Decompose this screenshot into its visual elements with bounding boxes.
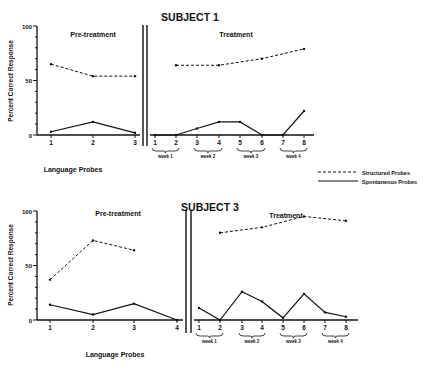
- x-tick-label: 6: [302, 324, 306, 331]
- data-point: [49, 304, 51, 306]
- data-point: [175, 64, 177, 66]
- chart-title: SUBJECT 3: [181, 201, 239, 213]
- data-point: [241, 290, 243, 292]
- week-brace: [194, 148, 222, 153]
- x-tick-label: 4: [175, 324, 179, 331]
- phase-label-treatment: Treatment: [269, 212, 303, 219]
- x-tick-label: 1: [49, 139, 53, 146]
- week-brace: [280, 148, 307, 153]
- data-point: [133, 249, 135, 251]
- data-point: [345, 316, 347, 318]
- data-point: [198, 307, 200, 309]
- legend-structured-label: Structured Probes: [362, 170, 410, 176]
- x-tick-label: 2: [218, 324, 222, 331]
- x-tick-label: 4: [217, 139, 221, 146]
- x-tick-label: 7: [323, 324, 327, 331]
- y-tick-label: 0: [29, 133, 33, 139]
- data-point: [154, 134, 156, 136]
- y-tick-label: 50: [25, 263, 32, 269]
- spontaneous-probes-line: [199, 292, 346, 320]
- legend: Structured ProbesSpontaneous Probes: [318, 170, 417, 185]
- x-tick-label: 3: [195, 139, 199, 146]
- data-point: [303, 110, 305, 112]
- data-point: [134, 132, 136, 134]
- data-point: [261, 226, 263, 228]
- x-tick-label: 2: [91, 139, 95, 146]
- spontaneous-probes-line: [155, 111, 304, 135]
- data-point: [50, 63, 52, 65]
- data-point: [219, 319, 221, 321]
- x-axis-label: Language Probes: [86, 351, 145, 359]
- x-tick-label: 1: [197, 324, 201, 331]
- structured-probes-line: [176, 49, 304, 65]
- week-label: week 2: [200, 154, 216, 159]
- legend-spontaneous-label: Spontaneous Probes: [362, 179, 417, 185]
- week-label: week 2: [244, 339, 260, 344]
- y-tick-label: 100: [22, 209, 33, 215]
- x-axis-label: Language Probes: [44, 166, 103, 174]
- data-point: [218, 121, 220, 123]
- week-label: week 4: [285, 154, 301, 159]
- chart-panel-subject-3: SUBJECT 3050100Percent Correct ResponseP…: [7, 201, 358, 359]
- y-tick-label: 100: [22, 24, 33, 30]
- y-tick-label: 50: [25, 78, 32, 84]
- week-brace: [280, 333, 307, 338]
- chart-canvas: SUBJECT 1050100Percent Correct ResponseP…: [0, 0, 432, 372]
- data-point: [219, 232, 221, 234]
- data-point: [303, 48, 305, 50]
- y-tick-label: 0: [29, 318, 33, 324]
- x-tick-label: 8: [302, 139, 306, 146]
- data-point: [92, 75, 94, 77]
- data-point: [261, 300, 263, 302]
- data-point: [50, 131, 52, 133]
- data-point: [92, 239, 94, 241]
- week-label: week 1: [201, 339, 217, 344]
- data-point: [134, 75, 136, 77]
- data-point: [133, 302, 135, 304]
- week-brace: [237, 148, 265, 153]
- data-point: [196, 127, 198, 129]
- x-tick-label: 3: [240, 324, 244, 331]
- x-tick-label: 5: [281, 324, 285, 331]
- x-tick-label: 7: [281, 139, 285, 146]
- x-tick-label: 8: [344, 324, 348, 331]
- structured-probes-line: [50, 240, 134, 279]
- x-tick-label: 6: [260, 139, 264, 146]
- y-axis-label: Percent Correct Response: [7, 40, 15, 122]
- x-tick-label: 1: [153, 139, 157, 146]
- x-tick-label: 1: [48, 324, 52, 331]
- data-point: [345, 220, 347, 222]
- y-axis-label: Percent Correct Response: [7, 224, 15, 306]
- chart-title: SUBJECT 1: [161, 11, 219, 23]
- data-point: [282, 134, 284, 136]
- week-brace: [152, 148, 179, 153]
- week-label: week 3: [243, 154, 259, 159]
- data-point: [261, 58, 263, 60]
- data-point: [176, 319, 178, 321]
- x-tick-label: 2: [174, 139, 178, 146]
- week-brace: [239, 333, 265, 338]
- data-point: [92, 313, 94, 315]
- phase-label-treatment: Treatment: [219, 31, 253, 38]
- x-tick-label: 4: [260, 324, 264, 331]
- week-brace: [196, 333, 223, 338]
- phase-label-pretreatment: Pre-treatment: [95, 210, 141, 217]
- data-point: [303, 293, 305, 295]
- data-point: [261, 134, 263, 136]
- x-tick-label: 5: [238, 139, 242, 146]
- data-point: [92, 121, 94, 123]
- data-point: [49, 278, 51, 280]
- spontaneous-probes-line: [50, 304, 177, 320]
- week-label: week 3: [285, 339, 301, 344]
- spontaneous-probes-line: [51, 122, 135, 133]
- phase-label-pretreatment: Pre-treatment: [70, 31, 116, 38]
- data-point: [175, 134, 177, 136]
- week-brace: [322, 333, 349, 338]
- data-point: [282, 317, 284, 319]
- chart-panel-subject-1: SUBJECT 1050100Percent Correct ResponseP…: [7, 11, 314, 174]
- x-tick-label: 3: [133, 139, 137, 146]
- x-tick-label: 3: [132, 324, 136, 331]
- week-label: week 1: [157, 154, 173, 159]
- data-point: [218, 64, 220, 66]
- x-tick-label: 2: [91, 324, 95, 331]
